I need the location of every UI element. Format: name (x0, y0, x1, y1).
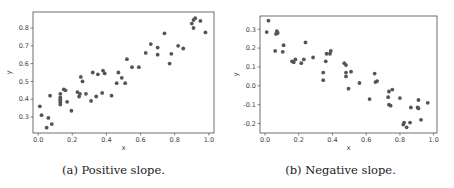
data-point (156, 53, 160, 57)
y-tick-label: -0.2 (243, 120, 256, 128)
data-point (311, 56, 315, 60)
data-point (96, 72, 100, 76)
data-point (387, 90, 391, 94)
data-point (40, 113, 44, 117)
data-point (267, 19, 271, 23)
data-point (304, 41, 308, 45)
data-point (402, 121, 406, 125)
data-point (302, 58, 306, 62)
data-point (156, 46, 160, 50)
data-point (419, 118, 423, 122)
data-point (163, 31, 167, 35)
data-point (344, 71, 348, 75)
data-point (325, 52, 329, 56)
figure-positive-slope: 0.00.20.40.60.81.00.30.40.50.60.70.8xy (… (0, 0, 227, 188)
y-tick-label: 0.8 (19, 24, 29, 32)
data-point (321, 71, 325, 75)
x-tick-label: 1.0 (204, 136, 214, 144)
data-point (324, 59, 328, 63)
data-point (373, 72, 377, 76)
y-tick-label: 0.2 (246, 44, 256, 52)
x-tick-label: 0.2 (67, 136, 77, 144)
data-point (115, 81, 119, 85)
y-tick-label: 0.7 (19, 42, 29, 50)
data-point (123, 81, 127, 85)
caption-a: (a) Positive slope. (0, 163, 227, 177)
data-point (89, 99, 93, 103)
data-point (347, 87, 351, 91)
data-point (50, 122, 54, 126)
data-point (281, 50, 285, 54)
data-point (426, 101, 430, 105)
data-point (169, 52, 173, 56)
plot-frame (260, 16, 437, 133)
data-point (94, 95, 98, 99)
caption-b: (b) Negative slope. (227, 163, 454, 177)
data-point (321, 78, 325, 82)
x-axis-label: x (121, 144, 125, 152)
x-tick-label: 0.8 (170, 136, 180, 144)
data-point (405, 125, 409, 129)
y-tick-label: 0.6 (19, 60, 29, 68)
data-point (81, 79, 85, 83)
data-point (84, 92, 88, 96)
scatter-plot-negative: 0.00.20.40.60.81.0-0.2-0.10.00.10.20.3xy (227, 0, 454, 160)
data-point (198, 19, 202, 23)
data-point (398, 96, 402, 100)
y-tick-label: -0.1 (243, 101, 256, 109)
data-point (144, 51, 148, 55)
data-point (276, 31, 280, 35)
data-point (149, 42, 153, 46)
data-point (344, 63, 348, 67)
data-point (48, 94, 52, 98)
x-tick-label: 0.2 (294, 136, 304, 144)
x-tick-label: 0.0 (260, 136, 270, 144)
data-point (349, 70, 353, 74)
y-axis-label: y (5, 70, 13, 74)
data-point (417, 98, 421, 102)
data-point (390, 88, 394, 92)
x-tick-label: 0.4 (327, 136, 337, 144)
data-point (58, 103, 62, 107)
x-tick-label: 0.6 (361, 136, 371, 144)
data-point (79, 75, 83, 79)
data-point (78, 92, 82, 96)
data-point (193, 16, 197, 20)
data-point (91, 71, 95, 75)
data-point (358, 81, 362, 85)
data-point (176, 44, 180, 48)
data-point (116, 71, 120, 75)
x-tick-label: 1.0 (428, 136, 438, 144)
y-tick-label: 0.3 (19, 113, 29, 121)
data-point (120, 76, 124, 80)
y-tick-label: 0.3 (246, 26, 256, 34)
data-point (64, 88, 68, 92)
data-point (273, 49, 277, 53)
data-point (299, 61, 303, 65)
x-tick-label: 0.0 (33, 136, 43, 144)
data-point (368, 97, 372, 101)
data-point (375, 79, 379, 83)
data-point (329, 49, 333, 53)
scatter-plot-positive: 0.00.20.40.60.81.00.30.40.50.60.70.8xy (0, 0, 227, 160)
data-point (190, 22, 194, 26)
data-point (181, 47, 185, 51)
data-point (70, 109, 74, 113)
y-tick-label: 0.5 (19, 78, 29, 86)
data-point (294, 58, 298, 62)
data-point (409, 106, 413, 110)
data-point (168, 62, 172, 66)
data-point (130, 65, 134, 69)
data-point (110, 94, 114, 98)
data-point (344, 74, 348, 78)
data-point (103, 71, 107, 75)
data-point (408, 121, 412, 125)
y-tick-label: 0.4 (19, 95, 29, 103)
data-point (192, 26, 196, 30)
data-point (282, 43, 286, 47)
data-point (265, 30, 269, 34)
y-axis-label: y (232, 72, 240, 76)
data-point (389, 104, 393, 108)
data-point (125, 57, 129, 61)
x-tick-label: 0.6 (135, 136, 145, 144)
